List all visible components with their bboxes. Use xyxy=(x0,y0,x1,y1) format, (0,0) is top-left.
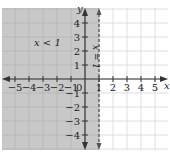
x-axis-label: x xyxy=(164,80,170,91)
x-tick-label: −3 xyxy=(36,82,51,93)
region-label: x < 1 xyxy=(34,37,61,48)
x-tick-label: −5 xyxy=(8,82,23,93)
x-tick-label: 5 xyxy=(152,82,158,93)
x-tick-label: 4 xyxy=(138,82,144,93)
inequality-graph: −5−4−3−2−112345−4−3−2−11234 x < 1 x = 1 … xyxy=(0,0,170,155)
y-tick-label: −3 xyxy=(65,116,80,127)
y-tick-label: 1 xyxy=(74,60,80,71)
x-tick-label: 2 xyxy=(110,82,116,93)
x-tick-label: 3 xyxy=(124,82,130,93)
x-tick-label: −4 xyxy=(22,82,37,93)
y-tick-label: 2 xyxy=(74,46,80,57)
y-axis-label: y xyxy=(76,3,83,14)
x-tick-label: −2 xyxy=(50,82,65,93)
boundary-label: x = 1 xyxy=(91,45,101,69)
origin-label: 0 xyxy=(76,82,82,93)
coordinate-plane: −5−4−3−2−112345−4−3−2−11234 x < 1 x = 1 … xyxy=(0,0,170,155)
y-tick-label: 3 xyxy=(74,32,80,43)
y-tick-label: 4 xyxy=(74,18,80,29)
y-tick-label: −4 xyxy=(65,130,80,141)
y-tick-label: −2 xyxy=(65,102,80,113)
x-tick-label: 1 xyxy=(96,82,102,93)
